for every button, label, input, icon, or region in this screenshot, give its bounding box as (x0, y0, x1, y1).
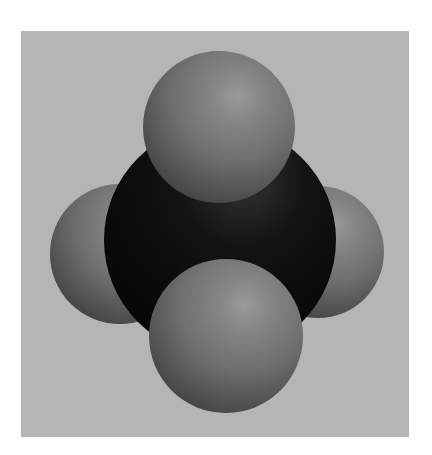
top-hydrogen-sphere (143, 51, 295, 203)
image-panel (21, 31, 409, 437)
bottom-hydrogen-sphere (149, 259, 303, 413)
